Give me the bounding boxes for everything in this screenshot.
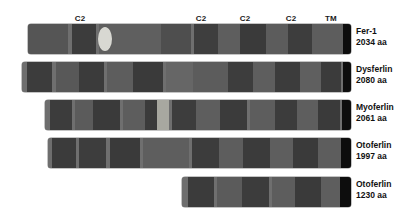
protein-domain-segment	[217, 177, 242, 207]
protein-domain-segment	[300, 62, 321, 92]
protein-domain-segment	[52, 138, 76, 168]
protein-domain-segment	[196, 100, 220, 130]
protein-name: Fer-1	[356, 26, 387, 37]
protein-label: Otoferlin1230 aa	[356, 179, 391, 200]
protein-domain-segment	[79, 62, 104, 92]
protein-domain-segment	[343, 24, 351, 54]
dysf-insert-marker	[98, 27, 112, 51]
protein-domain-segment	[228, 62, 253, 92]
protein-domain-segment	[275, 62, 300, 92]
protein-length: 2061 aa	[356, 113, 394, 124]
protein-label: Fer-12034 aa	[356, 26, 387, 47]
protein-domain-segment	[242, 177, 269, 207]
protein-name: Otoferlin	[356, 179, 391, 190]
protein-row: Dysferlin2080 aa	[0, 62, 407, 92]
domain-label-c2-1: C2	[196, 14, 207, 23]
ferlin-domain-figure: C2C2C2C2TM Fer-12034 aaDysferlin2080 aaM…	[0, 0, 407, 219]
protein-bar	[45, 100, 351, 130]
protein-domain-segment	[288, 24, 312, 54]
protein-label: Myoferlin2061 aa	[356, 102, 394, 123]
protein-length: 1230 aa	[356, 190, 391, 201]
protein-row: Otoferlin1997 aa	[0, 138, 407, 168]
protein-domain-segment	[218, 24, 240, 54]
protein-row: Myoferlin2061 aa	[0, 100, 407, 130]
protein-domain-segment	[266, 24, 288, 54]
domain-label-c2-2: C2	[240, 14, 251, 23]
protein-domain-segment	[72, 24, 96, 54]
protein-domain-segment	[79, 138, 106, 168]
protein-bar	[22, 62, 351, 92]
protein-domain-segment	[270, 138, 293, 168]
protein-domain-segment	[240, 24, 266, 54]
protein-length: 2034 aa	[356, 37, 387, 48]
protein-domain-segment	[340, 177, 351, 207]
protein-domain-segment	[161, 24, 191, 54]
protein-domain-segment	[50, 100, 72, 130]
protein-name: Otoferlin	[356, 140, 391, 151]
protein-domain-segment	[143, 138, 189, 168]
protein-domain-segment	[342, 100, 351, 130]
protein-length: 1997 aa	[356, 151, 391, 162]
domain-label-c2-0: C2	[75, 14, 86, 23]
protein-name: Dysferlin	[356, 64, 392, 75]
domain-label-c2-3: C2	[286, 14, 297, 23]
protein-domain-segment	[295, 177, 321, 207]
protein-domain-segment	[343, 62, 351, 92]
protein-domain-segment	[318, 138, 341, 168]
protein-domain-segment	[123, 100, 145, 130]
protein-domain-segment	[194, 24, 218, 54]
protein-domain-segment	[172, 100, 196, 130]
protein-domain-segment	[341, 138, 351, 168]
protein-domain-segment	[28, 24, 68, 54]
protein-domain-segment	[157, 100, 169, 130]
protein-domain-segment	[27, 62, 52, 92]
protein-domain-segment	[193, 62, 228, 92]
protein-bar	[182, 177, 351, 207]
protein-domain-segment	[192, 138, 219, 168]
protein-domain-segment	[275, 100, 297, 130]
protein-domain-segment	[220, 100, 247, 130]
protein-domain-segment	[133, 62, 163, 92]
protein-domain-segment	[243, 138, 270, 168]
protein-domain-segment	[272, 177, 295, 207]
protein-domain-segment	[318, 100, 340, 130]
protein-domain-segment	[312, 24, 343, 54]
protein-domain-segment	[293, 138, 318, 168]
protein-domain-segment	[56, 62, 79, 92]
protein-domain-segment	[75, 100, 93, 130]
protein-domain-segment	[253, 62, 275, 92]
protein-domain-segment	[166, 62, 193, 92]
protein-domain-segment	[188, 177, 214, 207]
protein-domain-segment	[93, 100, 120, 130]
protein-domain-segment	[107, 62, 133, 92]
protein-domain-segment	[321, 62, 341, 92]
protein-name: Myoferlin	[356, 102, 394, 113]
domain-label-tm-4: TM	[325, 14, 337, 23]
protein-domain-segment	[219, 138, 243, 168]
protein-row: Fer-12034 aa	[0, 24, 407, 54]
protein-domain-segment	[110, 138, 140, 168]
protein-label: Dysferlin2080 aa	[356, 64, 392, 85]
protein-domain-segment	[145, 100, 157, 130]
protein-domain-segment	[250, 100, 275, 130]
protein-domain-segment	[321, 177, 340, 207]
protein-bar	[48, 138, 351, 168]
protein-row: Otoferlin1230 aa	[0, 177, 407, 207]
protein-bar	[28, 24, 351, 54]
protein-length: 2080 aa	[356, 75, 392, 86]
protein-domain-segment	[297, 100, 318, 130]
protein-label: Otoferlin1997 aa	[356, 140, 391, 161]
